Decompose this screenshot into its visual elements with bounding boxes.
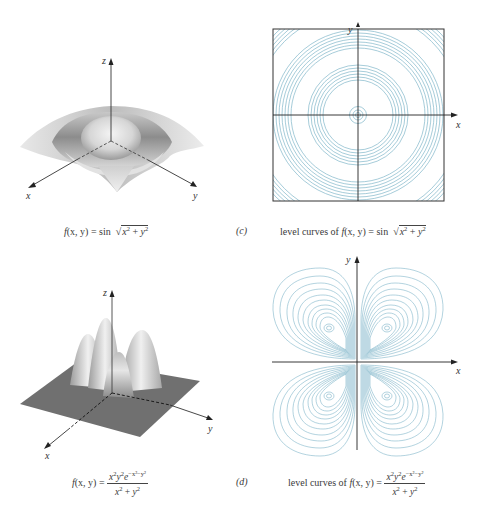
contour-plot-d: y x [260, 250, 478, 460]
surface-b-graphic [0, 270, 230, 465]
axis-label-z: z [103, 287, 107, 298]
fraction: x2y2e−x²−y²x2 + y2 [107, 470, 148, 497]
axis-label-y: y [208, 423, 212, 434]
axis-label-y: y [346, 254, 350, 265]
axis-label-x: x [45, 450, 49, 461]
axis-label-x: x [26, 190, 30, 201]
caption-a: f(x, y) = sin √x2 + y2 [64, 225, 148, 237]
caption-c: level curves of f(x, y) = sin √x2 + y2 [280, 225, 426, 237]
axis-label-y: y [348, 24, 352, 35]
caption-d: level curves of f(x, y) = x2y2e−x²−y²x2 … [288, 470, 425, 497]
axis-label-x: x [456, 365, 460, 376]
contour-d-graphic [260, 250, 478, 460]
surface-plot-b: z x y [0, 270, 230, 465]
axis-label-x: x [456, 119, 460, 130]
panel-letter-c: (c) [236, 225, 247, 236]
contour-c-graphic [260, 15, 478, 210]
contour-plot-c: y x [260, 15, 478, 210]
axis-label-z: z [102, 55, 106, 66]
caption-b: f(x, y) = x2y2e−x²−y²x2 + y2 [72, 470, 148, 497]
axis-label-y: y [193, 190, 197, 201]
panel-letter-d: (d) [236, 476, 248, 487]
fraction: x2y2e−x²−y²x2 + y2 [384, 470, 425, 497]
surface-a-graphic [0, 0, 230, 210]
surface-plot-a: z x y [0, 0, 230, 210]
